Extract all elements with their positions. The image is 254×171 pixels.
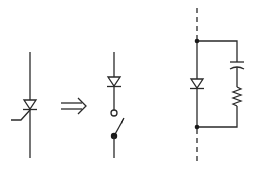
implies-arrow-icon: [61, 98, 86, 114]
thyristor-symbol: [11, 52, 37, 158]
top-node: [195, 39, 200, 44]
snubber-diode-triangle-icon: [191, 79, 203, 88]
thyristor-triangle-icon: [24, 100, 36, 109]
rc-top-wire: [197, 41, 237, 62]
rc-bottom-wire: [197, 106, 237, 127]
bottom-node: [195, 125, 200, 130]
resistor-zigzag-icon: [233, 87, 241, 106]
switch-contact-open: [111, 110, 117, 116]
diode-rc-snubber: [190, 8, 244, 165]
circuit-diagram: [0, 0, 254, 171]
diode-switch-symbol: [107, 52, 124, 158]
thyristor-gate-lead: [11, 110, 30, 120]
diode-triangle-icon: [108, 77, 120, 86]
